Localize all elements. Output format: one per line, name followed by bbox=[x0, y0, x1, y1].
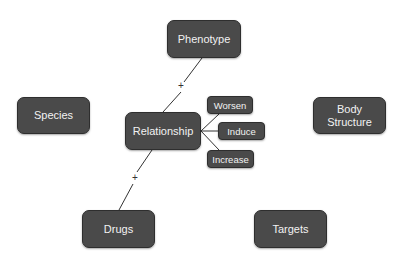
edge-relationship-increase bbox=[201, 131, 219, 150]
node-worsen[interactable]: Worsen bbox=[207, 96, 253, 114]
edge-relationship-worsen bbox=[201, 114, 219, 131]
node-body-structure[interactable]: Body Structure bbox=[313, 97, 386, 134]
node-relationship[interactable]: Relationship bbox=[125, 112, 201, 150]
node-drugs[interactable]: Drugs bbox=[82, 210, 155, 248]
node-increase[interactable]: Increase bbox=[207, 150, 254, 168]
edge-label-plus: + bbox=[132, 172, 138, 183]
node-species[interactable]: Species bbox=[17, 97, 90, 134]
node-induce[interactable]: Induce bbox=[218, 122, 265, 140]
edge-label-plus: + bbox=[178, 80, 184, 91]
node-phenotype[interactable]: Phenotype bbox=[167, 20, 241, 58]
edge-relationship-drugs bbox=[137, 150, 152, 172]
edge-relationship-phenotype bbox=[163, 92, 181, 112]
edge-relationship-phenotype bbox=[184, 58, 202, 82]
node-targets[interactable]: Targets bbox=[254, 210, 327, 248]
edge-relationship-drugs bbox=[119, 184, 133, 210]
